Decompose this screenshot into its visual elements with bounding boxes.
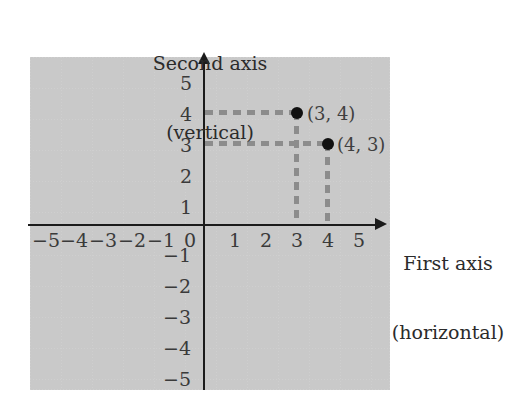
x-tick-label-3: 3 xyxy=(285,231,309,250)
x-tick-label-4: 4 xyxy=(316,231,340,250)
y-axis-title-line1: Second axis xyxy=(120,52,300,75)
y-tick-label-neg4: −4 xyxy=(163,339,187,358)
x-tick-label-neg3: −3 xyxy=(89,231,113,250)
x-tick-label-5: 5 xyxy=(347,231,371,250)
y-tick-label-neg3: −3 xyxy=(163,308,187,327)
data-point-label-4-3: (4, 3) xyxy=(337,136,385,154)
x-axis-title-line1: First axis xyxy=(385,252,511,275)
data-point-4-3 xyxy=(322,138,334,150)
grid-line-h xyxy=(30,317,390,318)
x-tick-label-neg4: −4 xyxy=(60,231,84,250)
grid-line-h xyxy=(30,212,390,213)
grid-line-h xyxy=(30,389,390,390)
x-tick-label-2: 2 xyxy=(254,231,278,250)
y-tick-label-neg5: −5 xyxy=(163,370,187,389)
coordinate-plane-figure: −5 −4 −3 −2 −1 0 1 2 3 4 5 5 4 3 2 1 −1 … xyxy=(0,0,514,414)
y-tick-label-neg2: −2 xyxy=(163,277,187,296)
x-axis-title-line2: (horizontal) xyxy=(385,321,511,344)
grid-line-h xyxy=(30,286,390,287)
guide-line-vertical-x4 xyxy=(325,143,330,226)
y-axis-title-line2: (vertical) xyxy=(120,121,300,144)
grid-line-h xyxy=(30,348,390,349)
y-tick-label-neg1: −1 xyxy=(163,246,187,265)
x-tick-label-neg2: −2 xyxy=(118,231,142,250)
x-axis-title: First axis (horizontal) xyxy=(385,206,511,390)
x-tick-label-neg5: −5 xyxy=(32,231,56,250)
y-tick-label-1: 1 xyxy=(168,198,192,217)
x-tick-label-1: 1 xyxy=(223,231,247,250)
y-axis-title: Second axis (vertical) xyxy=(120,6,300,190)
grid-line-h xyxy=(30,379,390,380)
grid-line-h xyxy=(30,255,390,256)
data-point-label-3-4: (3, 4) xyxy=(307,105,355,123)
